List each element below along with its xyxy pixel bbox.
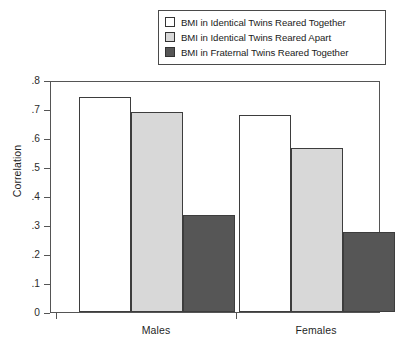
y-axis-tick-label: .4 <box>0 192 40 202</box>
y-axis-tick-label: 0 <box>0 308 40 318</box>
x-axis-category-label: Females <box>238 325 394 336</box>
bar <box>131 112 183 312</box>
legend-label-fraternal-together: BMI in Fraternal Twins Reared Together <box>181 47 348 58</box>
y-axis-tick-label: .3 <box>0 221 40 231</box>
bars-layer <box>51 82 379 312</box>
y-axis-tick-label: .5 <box>0 163 40 173</box>
legend-item-identical-together: BMI in Identical Twins Reared Together <box>165 15 380 29</box>
legend-label-identical-together: BMI in Identical Twins Reared Together <box>181 17 346 28</box>
chart-legend: BMI in Identical Twins Reared Together B… <box>158 10 386 65</box>
bar <box>79 97 131 312</box>
x-axis-category-label: Males <box>78 325 234 336</box>
plot-area <box>50 81 380 313</box>
bar <box>183 215 235 312</box>
legend-item-identical-apart: BMI in Identical Twins Reared Apart <box>165 30 380 44</box>
legend-swatch-identical-together <box>165 17 175 27</box>
legend-label-identical-apart: BMI in Identical Twins Reared Apart <box>181 32 331 43</box>
bar-chart-figure: BMI in Identical Twins Reared Together B… <box>0 0 396 352</box>
bar <box>343 232 395 312</box>
y-axis-tick-label: .7 <box>0 105 40 115</box>
legend-swatch-identical-apart <box>165 32 175 42</box>
legend-swatch-fraternal-together <box>165 47 175 57</box>
y-axis-tick-label: .1 <box>0 279 40 289</box>
bar <box>239 115 291 312</box>
y-axis-tick <box>44 313 50 314</box>
y-axis-tick-label: .6 <box>0 134 40 144</box>
y-axis-tick-label: .2 <box>0 250 40 260</box>
x-axis-tick <box>56 313 57 319</box>
y-axis-tick-label: .8 <box>0 76 40 86</box>
x-axis-tick <box>236 313 237 319</box>
legend-item-fraternal-together: BMI in Fraternal Twins Reared Together <box>165 45 380 59</box>
bar <box>291 148 343 312</box>
